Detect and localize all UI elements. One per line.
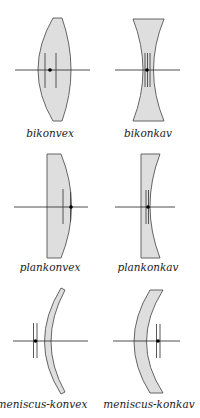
lens-label: plankonvex — [20, 261, 81, 273]
center-point — [146, 205, 150, 209]
lens-meniscus-konvex: meniscus-konvex — [0, 288, 88, 410]
center-point — [69, 205, 73, 209]
center-point — [48, 68, 52, 72]
center-point — [145, 68, 149, 72]
lens-shape-plankonkav — [141, 154, 160, 258]
lens-label: bikonvex — [26, 127, 74, 139]
lens-types-diagram: bikonvex bikonkav plankonvex plankonkav — [0, 0, 200, 418]
lens-label: meniscus-konkav — [103, 398, 194, 410]
center-point — [34, 339, 38, 343]
lens-meniscus-konkav: meniscus-konkav — [103, 290, 194, 410]
lens-label: meniscus-konvex — [0, 398, 87, 410]
center-point — [156, 339, 160, 343]
lens-shape-plankonvex — [47, 154, 72, 258]
lens-shape-bikonvex — [38, 18, 71, 121]
lens-label: bikonkav — [124, 127, 172, 139]
lens-bikonkav: bikonkav — [115, 19, 180, 139]
lens-bikonvex: bikonvex — [15, 18, 90, 139]
lens-label: plankonkav — [117, 261, 178, 273]
lens-plankonvex: plankonvex — [14, 154, 88, 273]
lens-plankonkav: plankonkav — [115, 154, 179, 273]
